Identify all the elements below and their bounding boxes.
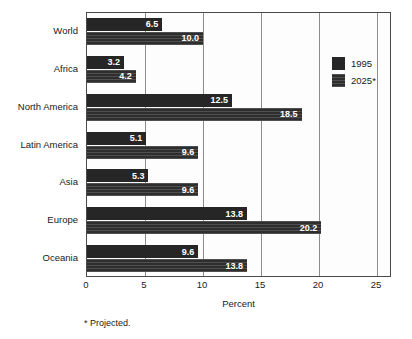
- bar-2025-latin-america: 9.6: [87, 146, 198, 159]
- x-tick-label-25: 25: [371, 279, 382, 290]
- bar-value-label: 13.8: [226, 209, 244, 218]
- bar-2025-asia: 9.6: [87, 183, 198, 196]
- bar-1995-north-america: 12.5: [87, 94, 232, 107]
- plot-area: 6.510.03.24.212.518.55.19.65.39.613.820.…: [86, 12, 391, 277]
- bar-group: 13.820.2: [87, 206, 391, 236]
- legend-entry-1995: 1995: [332, 55, 376, 72]
- category-label-oceania: Oceania: [0, 253, 78, 263]
- bar-1995-world: 6.5: [87, 18, 162, 31]
- x-axis-title: Percent: [86, 298, 391, 309]
- bar-value-label: 9.6: [182, 148, 195, 157]
- legend-swatch-2025-icon: [332, 74, 345, 87]
- x-tick-label-15: 15: [255, 279, 266, 290]
- bar-2025-north-america: 18.5: [87, 108, 302, 121]
- bar-1995-europe: 13.8: [87, 207, 247, 220]
- category-label-asia: Asia: [0, 177, 78, 187]
- legend-label-2025: 2025*: [351, 75, 376, 86]
- chart-footnote: * Projected.: [84, 318, 131, 328]
- legend-label-1995: 1995: [351, 58, 372, 69]
- x-tick-label-10: 10: [197, 279, 208, 290]
- bar-1995-asia: 5.3: [87, 169, 148, 182]
- category-label-europe: Europe: [0, 215, 78, 225]
- bar-value-label: 12.5: [210, 96, 228, 105]
- bar-value-label: 13.8: [226, 261, 244, 270]
- bar-group: 12.518.5: [87, 93, 391, 123]
- legend-entry-2025: 2025*: [332, 72, 376, 89]
- bar-1995-oceania: 9.6: [87, 245, 198, 258]
- category-label-africa: Africa: [0, 64, 78, 74]
- bar-value-label: 10.0: [181, 34, 199, 43]
- bar-group: 9.613.8: [87, 244, 391, 274]
- bar-value-label: 20.2: [300, 223, 318, 232]
- category-label-latin-america: Latin America: [0, 140, 78, 150]
- category-axis-labels: WorldAfricaNorth AmericaLatin AmericaAsi…: [0, 12, 82, 277]
- bar-2025-world: 10.0: [87, 32, 203, 45]
- bar-value-label: 9.6: [182, 247, 195, 256]
- chart-legend: 1995 2025*: [332, 55, 376, 89]
- x-tick-label-0: 0: [83, 279, 88, 290]
- bar-group: 5.19.6: [87, 131, 391, 161]
- bar-value-label: 5.3: [132, 171, 145, 180]
- bar-value-label: 6.5: [146, 20, 159, 29]
- bar-2025-europe: 20.2: [87, 221, 321, 234]
- bar-1995-latin-america: 5.1: [87, 132, 146, 145]
- legend-swatch-1995-icon: [332, 57, 345, 70]
- x-axis-tick-labels: 0510152025: [86, 279, 391, 293]
- bar-group: 5.39.6: [87, 168, 391, 198]
- category-label-north-america: North America: [0, 102, 78, 112]
- x-tick-label-20: 20: [313, 279, 324, 290]
- bar-value-label: 3.2: [108, 58, 121, 67]
- bar-1995-africa: 3.2: [87, 56, 124, 69]
- bar-chart-figure: WorldAfricaNorth AmericaLatin AmericaAsi…: [0, 0, 412, 339]
- bar-2025-oceania: 13.8: [87, 259, 247, 272]
- bar-2025-africa: 4.2: [87, 70, 136, 83]
- bar-group: 6.510.0: [87, 17, 391, 47]
- bar-value-label: 18.5: [280, 110, 298, 119]
- bar-value-label: 4.2: [119, 72, 132, 81]
- category-label-world: World: [0, 26, 78, 36]
- x-tick-label-5: 5: [141, 279, 146, 290]
- bar-value-label: 9.6: [182, 185, 195, 194]
- bar-value-label: 5.1: [130, 134, 143, 143]
